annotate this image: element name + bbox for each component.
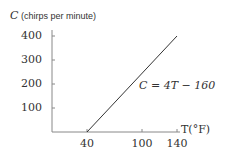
x-tick: 100 xyxy=(127,137,157,150)
equation-annotation: C = 4T − 160 xyxy=(139,79,215,92)
y-tick: 100 xyxy=(16,101,42,114)
y-tick: 300 xyxy=(16,53,42,66)
x-tick: 40 xyxy=(72,137,102,150)
y-tick: 400 xyxy=(16,29,42,42)
x-tick: 140 xyxy=(162,137,192,150)
x-axis-label: T(°F) xyxy=(181,123,210,136)
y-tick: 200 xyxy=(16,77,42,90)
